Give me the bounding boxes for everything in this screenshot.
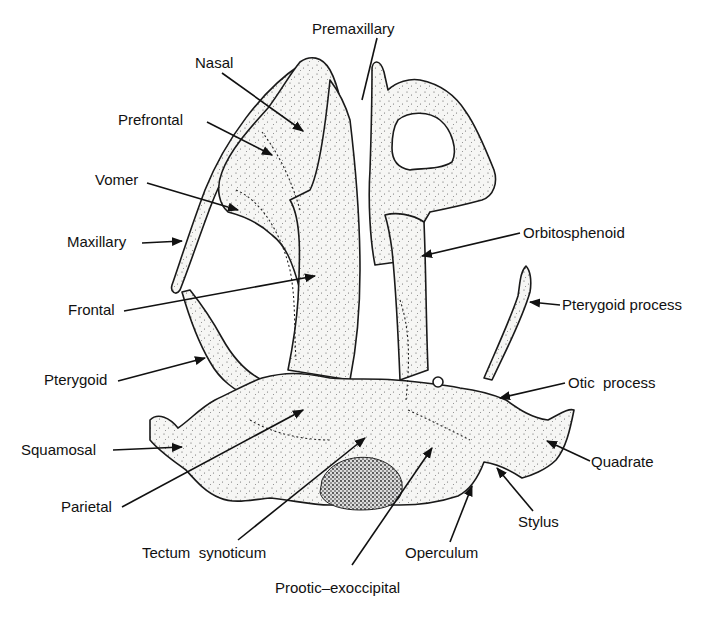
label-pterygoid-process: Pterygoid process xyxy=(562,296,682,313)
label-frontal: Frontal xyxy=(68,301,115,318)
label-vomer: Vomer xyxy=(95,171,138,188)
label-orbitosphenoid: Orbitosphenoid xyxy=(523,224,625,241)
label-nasal: Nasal xyxy=(195,54,233,71)
label-squamosal: Squamosal xyxy=(21,441,96,458)
label-quadrate: Quadrate xyxy=(591,453,654,470)
label-tectum-synoticum: Tectum synoticum xyxy=(142,544,266,561)
label-premaxillary: Premaxillary xyxy=(312,20,395,37)
label-parietal: Parietal xyxy=(61,498,112,515)
leader-pterygoid-process xyxy=(530,302,560,305)
label-pterygoid: Pterygoid xyxy=(44,371,107,388)
label-prootic-exoccipital: Prootic–exoccipital xyxy=(275,579,400,596)
leader-maxillary xyxy=(142,241,182,243)
otic-foramen xyxy=(433,377,443,387)
leader-orbitosphenoid xyxy=(422,233,520,256)
leader-pterygoid xyxy=(118,358,205,381)
label-stylus: Stylus xyxy=(518,513,559,530)
leader-otic-process xyxy=(500,383,565,398)
label-maxillary: Maxillary xyxy=(67,233,127,250)
label-otic-process: Otic process xyxy=(568,374,656,391)
pterygoid-process-bone xyxy=(484,266,531,380)
label-prefrontal: Prefrontal xyxy=(118,111,183,128)
orbitosphenoid-bone xyxy=(385,214,428,380)
left-pterygoid-bone xyxy=(182,290,262,396)
label-operculum: Operculum xyxy=(405,544,478,561)
skull-diagram: Premaxillary Nasal Prefrontal Vomer Maxi… xyxy=(0,0,718,621)
leader-frontal xyxy=(124,276,315,311)
